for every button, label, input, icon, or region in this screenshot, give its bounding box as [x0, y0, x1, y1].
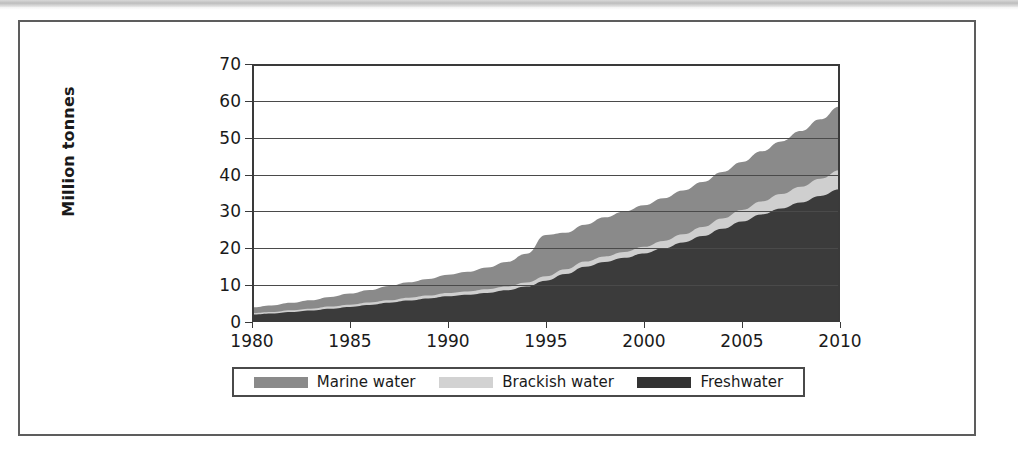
- gridline-40: [252, 175, 840, 176]
- scan-top-band-shadow: [0, 7, 1018, 10]
- y-tick-label-60: 60: [219, 91, 241, 111]
- legend-swatch-marine-water: [254, 377, 308, 388]
- legend-item-marine-water: Marine water: [254, 373, 416, 391]
- gridline-20: [252, 248, 840, 249]
- x-tick-mark-1980: [252, 322, 253, 328]
- x-tick-mark-1985: [350, 322, 351, 328]
- y-tick-label-40: 40: [219, 165, 241, 185]
- y-tick-mark-20: [245, 248, 252, 249]
- y-tick-mark-0: [245, 322, 252, 323]
- x-tick-label-2005: 2005: [720, 331, 763, 351]
- x-tick-label-1980: 1980: [230, 331, 273, 351]
- scan-top-band: [0, 0, 1018, 7]
- x-tick-mark-1990: [448, 322, 449, 328]
- y-tick-mark-50: [245, 138, 252, 139]
- y-tick-mark-70: [245, 64, 252, 65]
- x-tick-label-2000: 2000: [622, 331, 665, 351]
- x-tick-mark-2005: [742, 322, 743, 328]
- y-tick-label-0: 0: [230, 312, 241, 332]
- y-tick-label-50: 50: [219, 128, 241, 148]
- figure-frame: Million tonnes 010203040506070 198019851…: [18, 20, 976, 436]
- stacked-area-series: [252, 64, 840, 322]
- legend-label-brackish-water: Brackish water: [502, 373, 614, 391]
- y-tick-mark-60: [245, 101, 252, 102]
- x-tick-mark-1995: [546, 322, 547, 328]
- y-axis-title: Million tonnes: [59, 52, 78, 252]
- plot-area: 010203040506070 198019851990199520002005…: [252, 64, 840, 322]
- page-canvas: Million tonnes 010203040506070 198019851…: [0, 0, 1018, 458]
- gridline-60: [252, 101, 840, 102]
- y-tick-mark-40: [245, 175, 252, 176]
- x-tick-mark-2010: [840, 322, 841, 328]
- legend-swatch-brackish-water: [439, 377, 493, 388]
- chart-area: Million tonnes 010203040506070 198019851…: [20, 22, 978, 438]
- legend-label-marine-water: Marine water: [317, 373, 416, 391]
- x-tick-label-1985: 1985: [328, 331, 371, 351]
- y-tick-label-20: 20: [219, 238, 241, 258]
- chart-legend: Marine water Brackish water Freshwater: [232, 367, 805, 397]
- legend-item-brackish-water: Brackish water: [439, 373, 614, 391]
- y-tick-label-30: 30: [219, 201, 241, 221]
- gridline-10: [252, 285, 840, 286]
- y-axis-line: [252, 64, 254, 322]
- y-tick-label-70: 70: [219, 54, 241, 74]
- legend-swatch-freshwater: [637, 377, 691, 388]
- gridline-30: [252, 211, 840, 212]
- gridline-50: [252, 138, 840, 139]
- plot-right-border: [838, 64, 840, 322]
- x-tick-label-1990: 1990: [426, 331, 469, 351]
- x-tick-mark-2000: [644, 322, 645, 328]
- y-tick-label-10: 10: [219, 275, 241, 295]
- x-tick-label-2010: 2010: [818, 331, 861, 351]
- x-tick-label-1995: 1995: [524, 331, 567, 351]
- legend-item-freshwater: Freshwater: [637, 373, 783, 391]
- y-tick-mark-30: [245, 211, 252, 212]
- legend-label-freshwater: Freshwater: [700, 373, 783, 391]
- plot-top-border: [252, 64, 840, 66]
- y-tick-mark-10: [245, 285, 252, 286]
